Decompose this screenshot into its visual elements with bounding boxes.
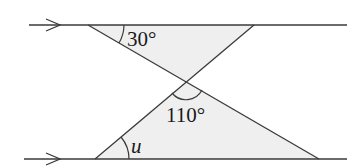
angle-label-30: 30° <box>127 27 156 51</box>
angle-label-110: 110° <box>166 103 205 127</box>
diagram-canvas: 30° 110° u <box>0 0 347 168</box>
lower-triangle-fill <box>95 81 319 159</box>
angle-label-u: u <box>131 134 142 158</box>
geometry-figure: 30° 110° u <box>0 0 347 168</box>
